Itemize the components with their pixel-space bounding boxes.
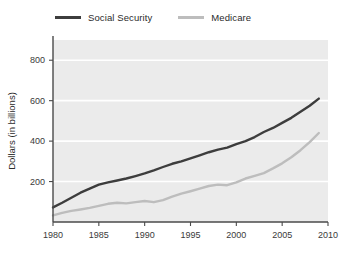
x-tick-label-1980: 1980	[43, 230, 63, 240]
y-tick-label-600: 600	[30, 96, 45, 106]
y-axis-title-text: Dollars (in billions)	[6, 92, 17, 170]
plot-background	[53, 40, 328, 222]
y-axis-title: Dollars (in billions)	[6, 92, 17, 170]
y-tick-label-800: 800	[30, 55, 45, 65]
x-tick-label-2005: 2005	[272, 230, 292, 240]
chart-figure: Social Security Medicare 200400600800198…	[0, 0, 345, 257]
y-tick-label-200: 200	[30, 177, 45, 187]
x-tick-label-1990: 1990	[135, 230, 155, 240]
x-tick-label-2000: 2000	[226, 230, 246, 240]
x-tick-label-1995: 1995	[180, 230, 200, 240]
y-tick-label-400: 400	[30, 136, 45, 146]
line-chart: 2004006008001980198519901995200020052010…	[0, 0, 345, 257]
x-tick-label-2010: 2010	[318, 230, 338, 240]
x-tick-label-1985: 1985	[89, 230, 109, 240]
plot-area	[53, 40, 328, 222]
